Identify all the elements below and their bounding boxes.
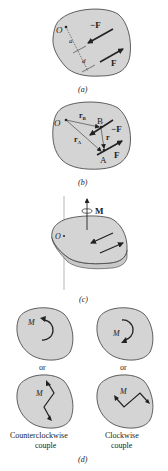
rigid-body-plate	[97, 375, 153, 428]
panel-a-caption: (a)	[78, 85, 88, 94]
rigid-body-plate	[17, 308, 73, 360]
point-b	[100, 126, 103, 129]
couple-diagram-figure: O a d −F F (a) O rB rA r B A −F F	[0, 0, 168, 471]
or-label-left: or	[39, 363, 46, 372]
neg-force-label: −F	[111, 124, 122, 134]
panel-b-caption: (b)	[78, 178, 88, 187]
ccw-caption-line2: couple	[35, 441, 57, 450]
point-o-label: O	[56, 25, 63, 35]
neg-force-label: −F	[90, 20, 101, 30]
cw-caption-line1: Clockwise	[105, 431, 139, 440]
distance-a-label: a	[69, 37, 73, 45]
point-a	[103, 149, 106, 152]
or-label-right: or	[120, 363, 127, 372]
moment-label-ccw: M	[27, 318, 36, 327]
rigid-body-plate	[97, 308, 153, 360]
panel-a: O a d −F F (a)	[53, 9, 131, 94]
point-o	[63, 235, 65, 237]
point-a-label: A	[100, 155, 107, 165]
moment-label-zigzag-cw: M	[119, 387, 128, 396]
panel-d-caption: (d)	[78, 455, 88, 464]
ccw-caption-line1: Counterclockwise	[10, 431, 68, 440]
cw-caption-line2: couple	[111, 441, 133, 450]
point-o-label: O	[55, 232, 61, 241]
panel-c-caption: (c)	[79, 295, 88, 304]
moment-label: M	[95, 206, 104, 216]
point-o-label: O	[54, 118, 61, 128]
moment-label-zigzag-ccw: M	[35, 389, 44, 398]
rigid-body-plate	[17, 375, 73, 428]
force-label: F	[111, 58, 117, 68]
distance-d-label: d	[82, 57, 86, 65]
panel-b: O rB rA r B A −F F (b)	[53, 102, 131, 187]
r-label: r	[106, 133, 110, 142]
panel-d: M M or or M M Counterclockwise couple Cl…	[10, 308, 153, 464]
point-b-label: B	[97, 116, 103, 126]
panel-c: O M (c)	[52, 196, 127, 304]
force-label: F	[114, 150, 120, 160]
moment-label-cw: M	[112, 329, 121, 338]
